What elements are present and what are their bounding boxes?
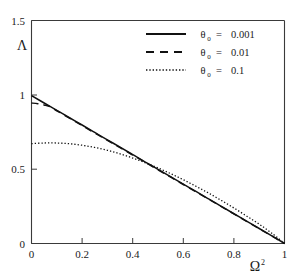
- x-ticklabel-1: 1: [282, 248, 288, 260]
- x-ticklabel-0.4: 0.4: [126, 248, 140, 260]
- legend-theta-subscript-2: 0: [207, 71, 211, 79]
- legend-equals-2: =: [216, 65, 222, 76]
- legend-equals-0: =: [216, 29, 222, 40]
- x-ticklabel-0: 0: [29, 248, 35, 260]
- legend-theta-symbol-1: θ: [200, 47, 205, 58]
- chart-figure: 0 0.5 1 1.5 0 0.2 0.4 0.6 0.8 1 Λ Ω 2: [0, 0, 297, 277]
- legend-theta-symbol-0: θ: [200, 29, 205, 40]
- legend-theta-subscript-0: 0: [207, 35, 211, 43]
- y-ticklabel-1.5: 1.5: [11, 15, 25, 27]
- x-axis-label-exponent: 2: [261, 258, 265, 267]
- y-ticklabel-0.5: 0.5: [11, 163, 25, 175]
- x-axis-label: Ω: [250, 259, 260, 274]
- legend-theta-subscript-1: 0: [207, 53, 211, 61]
- legend-equals-1: =: [216, 47, 222, 58]
- y-ticklabel-1: 1: [20, 89, 26, 101]
- legend-theta-symbol-2: θ: [200, 65, 205, 76]
- x-ticklabel-0.2: 0.2: [75, 248, 89, 260]
- chart-svg: 0 0.5 1 1.5 0 0.2 0.4 0.6 0.8 1 Λ Ω 2: [0, 0, 297, 277]
- legend-value-2: 0.1: [231, 65, 244, 76]
- y-ticklabel-0: 0: [20, 238, 26, 250]
- y-axis-label: Λ: [17, 38, 28, 53]
- x-ticklabel-0.6: 0.6: [176, 248, 190, 260]
- x-ticklabel-0.8: 0.8: [227, 248, 241, 260]
- legend-value-1: 0.01: [231, 47, 249, 58]
- chart-background: [0, 0, 297, 277]
- legend-value-0: 0.001: [231, 29, 255, 40]
